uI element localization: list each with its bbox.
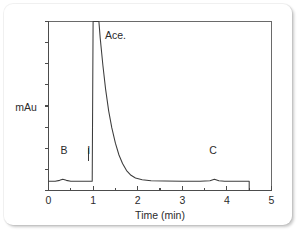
chromatogram-chart: 0 1 2 3 4 5 Time (min) mAu Ace. B I C	[4, 4, 292, 225]
marker-label-b: B	[60, 144, 67, 156]
y-axis-ticks	[45, 22, 49, 191]
y-axis-title: mAu	[15, 101, 37, 113]
marker-label-c: C	[209, 144, 217, 156]
x-axis-title: Time (min)	[135, 209, 185, 221]
figure-card: 0 1 2 3 4 5 Time (min) mAu Ace. B I C	[4, 4, 292, 225]
peak-label-ace: Ace.	[105, 29, 126, 41]
x-tick-label-0: 0	[46, 194, 52, 206]
x-tick-label-2: 2	[135, 194, 141, 206]
x-tick-label-5: 5	[269, 194, 275, 206]
chromatogram-trace	[49, 22, 250, 191]
x-tick-label-3: 3	[179, 194, 185, 206]
x-tick-label-4: 4	[224, 194, 230, 206]
plot-frame-top-right	[49, 22, 272, 191]
x-tick-label-1: 1	[90, 194, 96, 206]
marker-label-i: I	[87, 144, 90, 156]
